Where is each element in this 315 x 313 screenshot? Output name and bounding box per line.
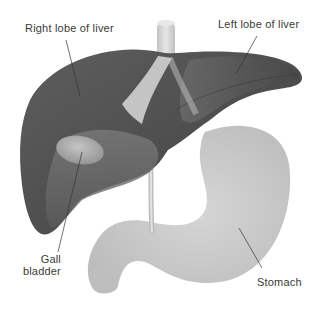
label-bladder: bladder	[20, 265, 61, 277]
label-right-lobe: Right lobe of liver	[25, 22, 114, 34]
label-left-lobe: Left lobe of liver	[218, 18, 299, 30]
label-gall: Gall	[30, 253, 61, 265]
label-stomach: Stomach	[257, 276, 302, 288]
liver-diagram: Right lobe of liver Left lobe of liver G…	[0, 0, 315, 313]
